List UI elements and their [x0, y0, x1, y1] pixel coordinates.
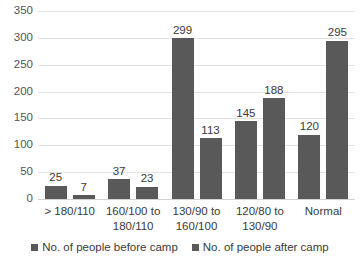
legend-label: No. of people after camp — [203, 241, 329, 254]
bar-slot: 299 — [170, 11, 196, 199]
bar-slot: 23 — [134, 11, 160, 199]
x-axis-tick: > 180/110 — [38, 202, 101, 238]
bar-value-label: 145 — [236, 108, 255, 120]
bar-slot: 188 — [261, 11, 287, 199]
bar-group: 145188 — [228, 11, 291, 199]
bar-group: 257 — [38, 11, 101, 199]
bar-slot: 7 — [71, 11, 97, 199]
bar[interactable] — [326, 41, 348, 199]
y-axis-tick: 200 — [0, 86, 33, 98]
bar[interactable] — [136, 187, 158, 199]
bar[interactable] — [263, 98, 285, 199]
y-axis-tick: 300 — [0, 32, 33, 44]
bar-value-label: 37 — [113, 166, 126, 178]
bar-groups: 2573723299113145188120295 — [38, 11, 355, 199]
bar-group: 120295 — [292, 11, 355, 199]
legend-label: No. of people before camp — [42, 241, 178, 254]
bar-value-label: 23 — [141, 173, 154, 185]
bar-value-label: 113 — [201, 125, 219, 137]
bar-value-label: 120 — [300, 121, 319, 133]
x-axis-tick: 160/100 to180/110 — [101, 202, 164, 238]
y-axis: 350 300 250 200 150 100 50 0 — [0, 11, 33, 199]
x-axis-tick-line: 160/100 to — [101, 204, 164, 219]
bar[interactable] — [235, 121, 257, 199]
x-axis-tick-line: 160/100 — [165, 219, 228, 234]
legend-swatch-icon — [31, 244, 38, 251]
bar-value-label: 299 — [173, 25, 192, 37]
bar-chart: 350 300 250 200 150 100 50 0 25737232991… — [0, 0, 360, 259]
bar-group: 299113 — [165, 11, 228, 199]
bar-value-label: 295 — [328, 27, 347, 39]
y-axis-tick: 50 — [0, 166, 33, 178]
bar[interactable] — [108, 179, 130, 199]
bar-value-label: 188 — [264, 85, 283, 97]
bar[interactable] — [200, 138, 222, 199]
bar-value-label: 25 — [49, 172, 62, 184]
bar-slot: 120 — [296, 11, 322, 199]
legend-swatch-icon — [192, 244, 199, 251]
bar-slot: 25 — [43, 11, 69, 199]
axis-baseline — [38, 199, 355, 200]
x-axis-tick-line: Normal — [292, 204, 355, 219]
y-axis-tick: 150 — [0, 113, 33, 125]
x-axis-tick: 120/80 to130/90 — [228, 202, 291, 238]
bar-slot: 113 — [198, 11, 224, 199]
x-axis-tick-line: > 180/110 — [38, 204, 101, 219]
x-axis-tick: 130/90 to160/100 — [165, 202, 228, 238]
bar[interactable] — [45, 186, 67, 199]
bar-group: 3723 — [101, 11, 164, 199]
x-axis: > 180/110160/100 to180/110130/90 to160/1… — [38, 202, 355, 238]
bar-slot: 295 — [324, 11, 350, 199]
bar[interactable] — [172, 38, 194, 199]
bar-slot: 37 — [106, 11, 132, 199]
bar[interactable] — [298, 135, 320, 199]
y-axis-tick: 350 — [0, 5, 33, 17]
x-axis-tick: Normal — [292, 202, 355, 238]
y-axis-tick: 250 — [0, 59, 33, 71]
x-axis-tick-line: 180/110 — [101, 219, 164, 234]
x-axis-tick-line: 130/90 to — [165, 204, 228, 219]
bar[interactable] — [73, 195, 95, 199]
bar-slot: 145 — [233, 11, 259, 199]
y-axis-tick: 0 — [0, 193, 33, 205]
chart-legend: No. of people before campNo. of people a… — [0, 241, 360, 254]
y-axis-tick: 100 — [0, 140, 33, 152]
x-axis-tick-line: 120/80 to — [228, 204, 291, 219]
legend-item[interactable]: No. of people after camp — [192, 241, 329, 254]
bar-value-label: 7 — [81, 182, 87, 194]
legend-item[interactable]: No. of people before camp — [31, 241, 178, 254]
x-axis-tick-line: 130/90 — [228, 219, 291, 234]
